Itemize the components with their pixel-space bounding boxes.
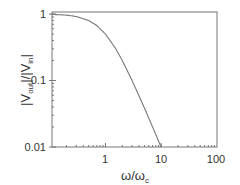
response-curve	[52, 14, 161, 147]
x-axis-label: ω/ωc	[121, 168, 149, 185]
x-tick-label-10: 10	[155, 153, 167, 165]
y-tick-label-1: 1	[40, 8, 46, 20]
y-tick-label-0.01: 0.01	[25, 141, 46, 153]
x-tick-label-100: 100	[207, 153, 225, 165]
x-axis-ticks	[66, 143, 214, 147]
y-axis-label: |Vout|/|Vin|	[18, 54, 35, 106]
y-axis-ticks	[49, 14, 56, 147]
bode-magnitude-chart: 1 0.1 0.01 1 10 100 ω/ωc |Vout|/|Vin|	[0, 0, 240, 185]
plot-frame	[52, 12, 217, 147]
x-tick-label-1: 1	[102, 153, 108, 165]
